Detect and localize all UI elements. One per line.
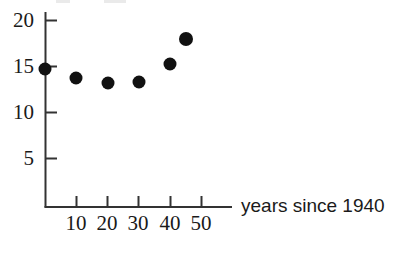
ytick-label-20: 20: [0, 10, 34, 31]
plot-area: 20 15 10 5 10 20 30 40 50 years since 19…: [0, 0, 410, 253]
xtick-label-30: 30: [121, 213, 155, 234]
data-point: [39, 63, 52, 76]
xtick-label-20: 20: [90, 213, 124, 234]
data-point: [164, 58, 177, 71]
chart-screenshot: 20 15 10 5 10 20 30 40 50 years since 19…: [0, 0, 410, 253]
xtick-label-50: 50: [184, 213, 218, 234]
data-point: [179, 32, 193, 46]
ytick-label-15: 15: [0, 56, 34, 77]
ytick-label-5: 5: [0, 148, 34, 169]
data-point: [70, 72, 83, 85]
xtick-label-40: 40: [153, 213, 187, 234]
data-point: [102, 77, 115, 90]
data-point: [133, 76, 146, 89]
ytick-label-10: 10: [0, 102, 34, 123]
x-axis-title: years since 1940: [241, 196, 385, 215]
xtick-label-10: 10: [59, 213, 93, 234]
